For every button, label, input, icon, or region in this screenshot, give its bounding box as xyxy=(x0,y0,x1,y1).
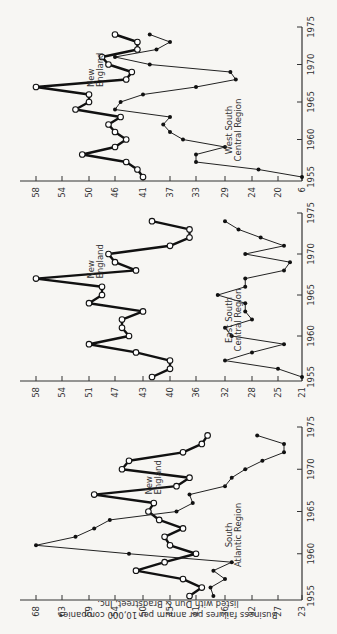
region-point xyxy=(282,244,286,248)
new-england-point xyxy=(91,492,97,498)
year-tick-label: 1965 xyxy=(306,91,316,113)
new-england-point xyxy=(123,159,129,165)
region-point xyxy=(191,501,195,505)
new-england-point xyxy=(187,475,193,481)
new-england-point xyxy=(126,333,132,339)
region-point xyxy=(141,93,145,97)
new-england-point xyxy=(135,39,141,45)
new-england-point xyxy=(162,534,168,540)
new-england-point xyxy=(187,235,193,241)
year-tick-label: 1965 xyxy=(306,501,316,523)
value-tick-label: 36 xyxy=(191,387,201,398)
value-tick-label: 40 xyxy=(165,387,175,398)
year-tick-label: 1975 xyxy=(306,416,316,438)
new-england-point xyxy=(106,251,112,257)
year-tick-label: 1960 xyxy=(306,543,316,565)
new-england-point xyxy=(33,84,39,90)
region-point xyxy=(237,227,241,231)
new-england-point xyxy=(151,500,157,506)
new-england-point xyxy=(106,122,112,128)
new-england-point xyxy=(180,576,186,582)
region-point xyxy=(34,543,38,547)
value-tick-label: 25 xyxy=(273,387,283,398)
value-tick-label: 54 xyxy=(57,387,67,398)
region-point xyxy=(282,342,286,346)
year-tick-label: 1975 xyxy=(306,16,316,38)
new-england-point xyxy=(180,450,186,456)
region-point xyxy=(243,285,247,289)
new-england-point xyxy=(123,77,129,83)
region-point xyxy=(243,301,247,305)
new-england-point xyxy=(73,107,79,113)
year-tick-label: 1970 xyxy=(306,243,316,265)
new-england-point xyxy=(180,526,186,532)
value-tick-label: 28 xyxy=(247,387,257,398)
new-england-point xyxy=(167,543,173,549)
year-tick-label: 1960 xyxy=(306,325,316,347)
region-point xyxy=(250,318,254,322)
region-point xyxy=(223,484,227,488)
value-tick-label: 33 xyxy=(191,187,201,198)
new-england-point xyxy=(149,218,155,224)
new-england-point xyxy=(112,144,118,150)
region-point xyxy=(148,63,152,67)
region-line xyxy=(36,435,284,596)
year-tick-label: 1955 xyxy=(306,166,316,188)
year-tick-label: 1960 xyxy=(306,129,316,151)
region-point xyxy=(243,277,247,281)
new-england-point xyxy=(135,47,141,53)
region-point xyxy=(223,577,227,581)
new-england-point xyxy=(123,137,129,143)
new-england-point xyxy=(86,341,92,347)
value-tick-label: 51 xyxy=(84,387,94,398)
new-england-point xyxy=(133,268,139,274)
new-england-point xyxy=(126,458,132,464)
value-tick-label: 58 xyxy=(31,187,41,198)
value-tick-label: 20 xyxy=(273,187,283,198)
region-point xyxy=(300,175,304,179)
new-england-point xyxy=(199,441,205,447)
region-point xyxy=(300,375,304,379)
region-point xyxy=(223,359,227,363)
new-england-point xyxy=(140,174,146,180)
region-point xyxy=(161,123,165,127)
value-tick-label: 41 xyxy=(138,187,148,198)
region-point xyxy=(194,160,198,164)
value-tick-label: 32 xyxy=(220,387,230,398)
region-point xyxy=(168,40,172,44)
new-england-point xyxy=(118,114,124,120)
panel-3: 5854504641373329242061955196019651970197… xyxy=(20,16,316,198)
new-england-point xyxy=(112,32,118,38)
region-point xyxy=(148,33,152,37)
region-point xyxy=(119,100,123,104)
region-point xyxy=(288,260,292,264)
new-england-point xyxy=(112,259,118,265)
new-england-label: NewEngland xyxy=(86,52,105,87)
value-tick-label: 24 xyxy=(247,187,257,198)
new-england-point xyxy=(140,309,146,315)
new-england-point xyxy=(146,509,152,515)
new-england-point xyxy=(112,129,118,135)
region-point xyxy=(243,467,247,471)
region-point xyxy=(228,70,232,74)
region-line xyxy=(115,35,302,178)
region-point xyxy=(259,236,263,240)
region-point xyxy=(211,594,215,598)
new-england-point xyxy=(167,366,173,372)
region-label: West SouthCentral Region xyxy=(224,99,243,162)
year-tick-label: 1975 xyxy=(306,202,316,224)
new-england-point xyxy=(187,593,193,599)
region-point xyxy=(74,535,78,539)
new-england-point xyxy=(162,559,168,565)
panel-1: 6863595450454136322723195519601965197019… xyxy=(20,416,316,617)
value-tick-label: 46 xyxy=(110,187,120,198)
year-tick-label: 1970 xyxy=(306,54,316,76)
region-point xyxy=(194,85,198,89)
new-england-point xyxy=(106,62,112,68)
y-axis-title-line2: listed with Dun & Bradstreet, Inc. xyxy=(97,599,238,609)
new-england-point xyxy=(86,99,92,105)
new-england-point xyxy=(135,167,141,173)
new-england-point xyxy=(167,243,173,249)
new-england-point xyxy=(119,466,125,472)
new-england-point xyxy=(205,433,211,439)
